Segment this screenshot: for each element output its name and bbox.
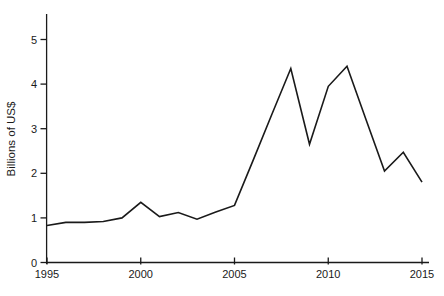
x-tick-label: 2005 xyxy=(222,268,246,280)
y-tick-label: 3 xyxy=(31,123,37,135)
data-series-line xyxy=(47,66,422,225)
x-tick-label: 2000 xyxy=(129,268,153,280)
y-tick-label: 4 xyxy=(31,78,37,90)
line-chart: 012345 19952000200520102015 Billions of … xyxy=(0,0,444,296)
x-tick-label: 2010 xyxy=(316,268,340,280)
y-axis-title: Billions of US$ xyxy=(5,101,17,176)
y-tick-label: 2 xyxy=(31,167,37,179)
x-tick-label: 2015 xyxy=(410,268,434,280)
y-tick-label: 1 xyxy=(31,212,37,224)
axes xyxy=(46,14,429,264)
y-axis-ticks: 012345 xyxy=(31,34,47,269)
x-tick-label: 1995 xyxy=(35,268,59,280)
line-chart-figure: 012345 19952000200520102015 Billions of … xyxy=(0,0,444,296)
x-axis-ticks: 19952000200520102015 xyxy=(35,258,434,280)
y-tick-label: 5 xyxy=(31,34,37,46)
